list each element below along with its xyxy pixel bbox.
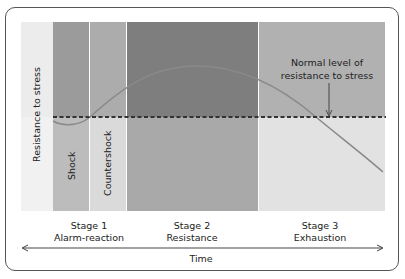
stage-3-number: Stage 3 — [265, 220, 375, 232]
time-axis-arrow — [22, 245, 383, 251]
normal-level-annotation: Normal level of resistance to stress — [267, 56, 387, 82]
stage-1-number: Stage 1 — [34, 220, 144, 232]
stage-3-name: Exhaustion — [265, 232, 375, 244]
annotation-line2: resistance to stress — [267, 69, 387, 82]
stage-2-label: Stage 2 Resistance — [137, 220, 247, 244]
stage-2-number: Stage 2 — [137, 220, 247, 232]
annotation-arrow — [326, 83, 332, 116]
stage-1-name: Alarm-reaction — [34, 232, 144, 244]
stage-1-label: Stage 1 Alarm-reaction — [34, 220, 144, 244]
stage-2-name: Resistance — [137, 232, 247, 244]
stage-3-label: Stage 3 Exhaustion — [265, 220, 375, 244]
x-axis-label: Time — [181, 253, 221, 264]
annotation-line1: Normal level of — [267, 56, 387, 69]
